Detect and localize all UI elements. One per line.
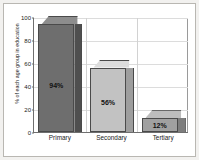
y-tick-mark	[32, 41, 34, 42]
bar-primary[interactable]: 94%	[38, 24, 74, 132]
y-tick-label: 0	[28, 130, 31, 136]
y-tick-label: 40	[24, 84, 31, 90]
bar-top-face	[94, 60, 130, 68]
y-tick-mark	[32, 110, 34, 111]
y-tick-mark	[32, 133, 34, 134]
gridline-vertical	[137, 18, 138, 132]
bar-value-label: 12%	[142, 122, 178, 129]
plot-right-edge	[187, 18, 188, 132]
y-tick-mark	[32, 18, 34, 19]
y-tick-mark	[32, 64, 34, 65]
chart-canvas: % of each age group in education 0204060…	[5, 5, 194, 155]
bar-side-face	[178, 118, 186, 132]
plot-area: 02040608010094%Primary56%Secondary12%Ter…	[33, 18, 188, 133]
x-tick-label-secondary: Secondary	[96, 135, 127, 141]
bar-value-label: 94%	[38, 82, 74, 89]
y-tick-label: 20	[24, 107, 31, 113]
bar-side-face	[126, 68, 134, 132]
y-tick-label: 60	[24, 61, 31, 67]
y-tick-label: 100	[21, 15, 31, 21]
bar-tertiary[interactable]: 12%	[142, 118, 178, 132]
y-axis-title: % of each age group in education	[15, 4, 20, 124]
x-tick-label-tertiary: Tertiary	[153, 135, 174, 141]
bar-front-face	[38, 24, 74, 132]
bar-value-label: 56%	[90, 99, 126, 106]
y-tick-mark	[32, 87, 34, 88]
chart-screenshot: % of each age group in education 0204060…	[0, 0, 199, 160]
bar-top-face	[145, 110, 181, 118]
bar-side-face	[74, 24, 82, 132]
x-tick-label-primary: Primary	[49, 135, 71, 141]
bar-secondary[interactable]: 56%	[90, 68, 126, 132]
gridline-vertical	[86, 18, 87, 132]
y-tick-label: 80	[24, 38, 31, 44]
plot-inner: 02040608010094%Primary56%Secondary12%Ter…	[34, 18, 188, 132]
